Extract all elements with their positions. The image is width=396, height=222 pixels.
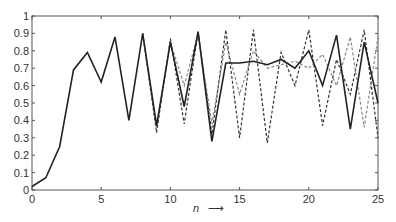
y-tick-label: 0.4 [14, 114, 29, 126]
y-tick-label: 0.2 [14, 149, 29, 161]
x-tick-label: 10 [164, 193, 176, 205]
y-tick-label: 1 [23, 10, 29, 22]
x-tick-label: 5 [98, 193, 104, 205]
y-tick-label: 0.9 [14, 27, 29, 39]
y-tick-label: 0.8 [14, 45, 29, 57]
x-tick-label: 20 [303, 193, 315, 205]
y-tick-label: 0.1 [14, 167, 29, 179]
x-tick-label: 0 [29, 193, 35, 205]
x-axis-label: n [193, 202, 199, 214]
x-tick-label: 15 [233, 193, 245, 205]
y-tick-label: 0.5 [14, 97, 29, 109]
y-tick-label: 0.7 [14, 62, 29, 74]
plot-area [32, 16, 378, 190]
x-axis-arrow: ⟶ [208, 202, 224, 214]
y-tick-label: 0.6 [14, 80, 29, 92]
y-tick-label: 0.3 [14, 132, 29, 144]
x-tick-label: 25 [372, 193, 384, 205]
line-chart: 00.10.20.30.40.50.60.70.80.91 0510152025… [0, 0, 396, 222]
